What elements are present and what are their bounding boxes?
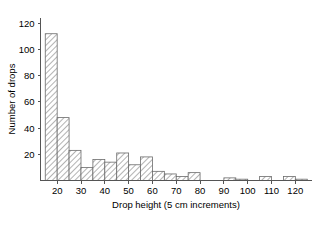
x-tick-label: 100 — [240, 185, 256, 196]
histogram-bar — [57, 118, 69, 181]
x-tick-label: 110 — [264, 185, 279, 196]
y-tick-label: 20 — [24, 149, 35, 160]
y-tick-label: 100 — [19, 44, 35, 55]
histogram-bar — [141, 157, 153, 181]
histogram-bar — [81, 167, 93, 180]
histogram-bar — [45, 34, 57, 181]
y-tick-label: 60 — [24, 96, 35, 107]
x-tick-label: 70 — [171, 185, 182, 196]
histogram-bar — [164, 174, 176, 181]
histogram-figure: 20406080100120 2030405060708090100110120… — [0, 0, 326, 227]
histogram-bar — [117, 153, 129, 181]
y-axis-title: Number of drops — [6, 63, 17, 134]
y-tick-label: 40 — [24, 123, 35, 134]
y-tick-label: 120 — [19, 18, 35, 29]
x-axis-title: Drop height (5 cm increments) — [112, 199, 240, 210]
x-tick-label: 40 — [100, 185, 111, 196]
histogram-bar — [93, 160, 105, 181]
histogram-bar — [176, 177, 188, 181]
histogram-bar — [188, 173, 200, 181]
histogram-bar — [260, 177, 272, 181]
histogram-bar — [69, 150, 81, 180]
x-tick-label: 30 — [76, 185, 87, 196]
histogram-bar — [129, 165, 141, 181]
x-tick-label: 50 — [123, 185, 134, 196]
chart-canvas: 20406080100120 2030405060708090100110120… — [0, 0, 326, 227]
x-tick-label: 90 — [219, 185, 230, 196]
x-tick-label: 80 — [195, 185, 206, 196]
histogram-bar — [105, 162, 117, 180]
y-tick-label: 80 — [24, 70, 35, 81]
x-tick-label: 120 — [287, 185, 303, 196]
histogram-bar — [283, 177, 295, 181]
x-tick-label: 60 — [147, 185, 158, 196]
histogram-bar — [152, 171, 164, 180]
x-tick-label: 20 — [52, 185, 63, 196]
